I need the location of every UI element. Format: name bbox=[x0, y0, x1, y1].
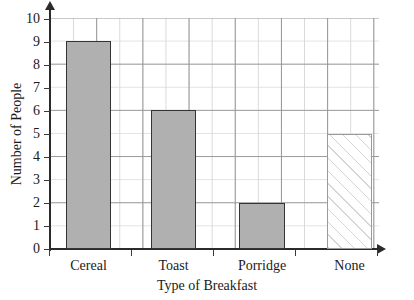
y-tick-mark-9 bbox=[44, 42, 50, 43]
y-tick-mark-7 bbox=[44, 88, 50, 89]
y-tick-label-1: 1 bbox=[14, 219, 40, 233]
x-tick-mark-2 bbox=[213, 250, 214, 256]
x-tick-mark-3 bbox=[295, 250, 296, 256]
y-tick-mark-6 bbox=[44, 111, 50, 112]
y-tick-mark-8 bbox=[44, 65, 50, 66]
x-tick-mark-0 bbox=[49, 250, 50, 256]
bar-cereal bbox=[66, 41, 111, 249]
x-tick-mark-4 bbox=[377, 250, 378, 256]
x-category-label-none: None bbox=[307, 258, 392, 274]
y-axis-arrow-icon bbox=[45, 1, 55, 10]
y-tick-mark-4 bbox=[44, 157, 50, 158]
x-category-label-porridge: Porridge bbox=[219, 258, 305, 274]
x-category-label-toast: Toast bbox=[131, 258, 216, 274]
y-tick-mark-5 bbox=[44, 134, 50, 135]
bar-none bbox=[327, 134, 372, 249]
y-tick-mark-2 bbox=[44, 203, 50, 204]
y-tick-mark-1 bbox=[44, 226, 50, 227]
x-axis-title: Type of Breakfast bbox=[0, 278, 414, 294]
y-tick-mark-3 bbox=[44, 180, 50, 181]
bar-toast bbox=[151, 110, 196, 249]
y-axis-title: Number of People bbox=[9, 49, 25, 219]
y-tick-label-10: 10 bbox=[14, 12, 40, 26]
y-tick-label-0: 0 bbox=[14, 242, 40, 256]
bar-porridge bbox=[239, 203, 285, 249]
y-axis-line bbox=[49, 8, 51, 251]
breakfast-bar-chart: 0 1 2 3 4 5 6 7 8 9 10 Cereal Toast Porr… bbox=[0, 0, 414, 300]
y-tick-mark-10 bbox=[44, 19, 50, 20]
y-tick-label-9: 9 bbox=[14, 35, 40, 49]
x-tick-mark-1 bbox=[131, 250, 132, 256]
x-axis-arrow-icon bbox=[377, 244, 386, 254]
x-category-label-cereal: Cereal bbox=[46, 258, 131, 274]
